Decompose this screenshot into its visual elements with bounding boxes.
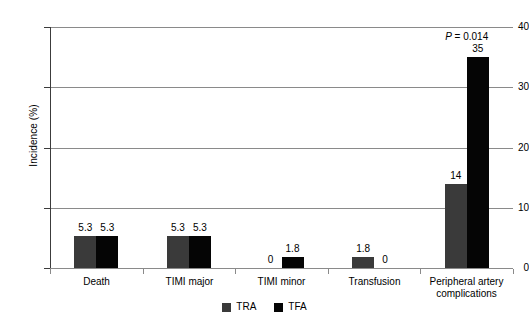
bar-tra-1 — [167, 236, 189, 268]
legend-label-tfa: TFA — [288, 302, 306, 312]
p-value-symbol: P — [445, 31, 452, 42]
x-tick-mark-2 — [235, 269, 236, 274]
p-value-text: = 0.014 — [452, 31, 488, 42]
bar-chart-figure: Incidence (%) 010203040 5.35.35.35.301.8… — [0, 0, 529, 323]
plot-area: 5.35.35.35.301.81.801435 — [50, 27, 513, 268]
x-category-label-3: Transfusion — [328, 276, 421, 288]
bar-value-tfa-2: 1.8 — [276, 244, 310, 254]
x-category-label-4: Peripheral arterycomplications — [420, 276, 513, 299]
bar-value-tfa-4: 35 — [461, 44, 495, 54]
x-tick-mark-5 — [513, 269, 514, 274]
legend-swatch-tra — [222, 303, 231, 312]
bar-value-tfa-1: 5.3 — [183, 223, 217, 233]
x-tick-mark-0 — [50, 269, 51, 274]
y-axis-title: Incidence (%) — [28, 56, 39, 216]
bar-value-tra-3: 1.8 — [346, 244, 380, 254]
x-tick-mark-4 — [420, 269, 421, 274]
x-category-label-1: TIMI major — [143, 276, 236, 288]
legend-swatch-tfa — [274, 303, 283, 312]
bar-tfa-4 — [467, 57, 489, 268]
x-tick-mark-1 — [143, 269, 144, 274]
x-category-label-2: TIMI minor — [235, 276, 328, 288]
x-category-label-0: Death — [50, 276, 143, 288]
bar-tfa-2 — [282, 257, 304, 268]
bar-value-tfa-3: 0 — [368, 255, 402, 265]
bar-tra-0 — [74, 236, 96, 268]
x-axis-line — [50, 268, 513, 269]
chart-legend: TRATFA — [0, 302, 529, 312]
x-tick-mark-3 — [328, 269, 329, 274]
bar-tra-4 — [445, 184, 467, 268]
bar-value-tfa-0: 5.3 — [90, 223, 124, 233]
legend-label-tra: TRA — [236, 302, 256, 312]
bar-tfa-0 — [96, 236, 118, 268]
bar-tfa-1 — [189, 236, 211, 268]
p-value-annotation: P = 0.014 — [422, 32, 512, 42]
legend-entry-tra: TRA — [222, 302, 256, 312]
legend-entry-tfa: TFA — [274, 302, 306, 312]
